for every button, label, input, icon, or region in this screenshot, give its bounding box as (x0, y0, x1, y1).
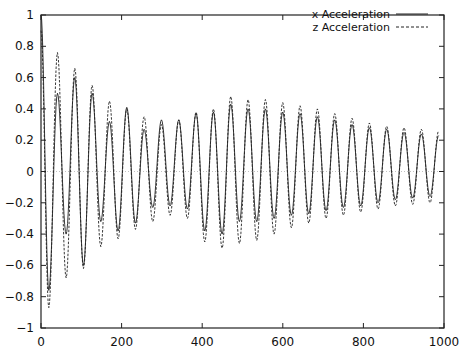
y-tick-label: 1 (26, 8, 34, 22)
series-group (41, 15, 439, 308)
series-line-x-acceleration (41, 15, 439, 290)
y-tick-label: −0.4 (5, 227, 34, 241)
y-tick-label: −0.6 (5, 258, 34, 272)
y-tick-label: 0.8 (15, 39, 34, 53)
x-tick-label: 400 (191, 335, 214, 349)
legend-label-z: z Acceleration (312, 21, 390, 34)
legend-label-x: x Acceleration (312, 8, 390, 21)
acceleration-chart: 02004006008001000−1−0.8−0.6−0.4−0.200.20… (0, 0, 460, 353)
legend: x Acceleration z Acceleration (312, 8, 428, 34)
y-tick-label: −0.8 (5, 290, 34, 304)
series-line-z-acceleration (41, 31, 439, 308)
y-tick-label: 0.6 (15, 71, 34, 85)
y-tick-label: 0 (26, 165, 34, 179)
x-tick-label: 1000 (429, 335, 460, 349)
ticks: 02004006008001000−1−0.8−0.6−0.4−0.200.20… (5, 8, 459, 349)
y-tick-label: 0.4 (15, 102, 34, 116)
x-tick-label: 600 (271, 335, 294, 349)
x-tick-label: 800 (352, 335, 375, 349)
y-tick-label: −1 (16, 321, 34, 335)
x-tick-label: 200 (110, 335, 133, 349)
x-tick-label: 0 (37, 335, 45, 349)
y-tick-label: 0.2 (15, 133, 34, 147)
y-tick-label: −0.2 (5, 196, 34, 210)
